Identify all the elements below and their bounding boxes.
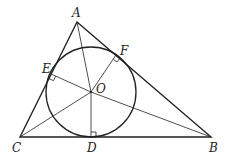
triangle-abc	[20, 22, 211, 137]
label-a: A	[71, 6, 81, 20]
label-b: B	[208, 141, 218, 155]
incircle-diagram: A B C O D E F	[0, 0, 227, 161]
point-o	[90, 91, 92, 93]
label-o: O	[96, 82, 106, 96]
segment-ob	[91, 92, 211, 137]
label-d: D	[86, 141, 97, 155]
label-f: F	[119, 44, 129, 58]
label-c: C	[12, 141, 21, 155]
label-e: E	[41, 62, 51, 76]
segment-oe	[51, 74, 91, 92]
